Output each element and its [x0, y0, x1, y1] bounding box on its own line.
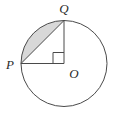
vertex-label-p: P	[5, 57, 14, 72]
vertex-label-q: Q	[59, 1, 69, 16]
right-angle-marker	[53, 53, 64, 64]
vertex-label-o: O	[69, 66, 79, 81]
geometry-figure: P Q O	[0, 0, 126, 124]
figure-canvas: P Q O	[0, 0, 126, 124]
